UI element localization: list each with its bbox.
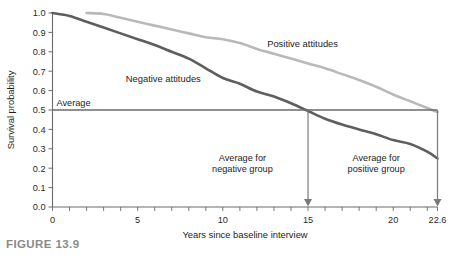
x-tick-label: 0 bbox=[50, 215, 55, 225]
y-tick-label: 0.8 bbox=[33, 47, 46, 57]
y-tick-label: 0.9 bbox=[33, 28, 46, 38]
y-tick-label: 0.4 bbox=[33, 125, 46, 135]
y-axis-ticks bbox=[49, 13, 53, 207]
x-axis-tick-labels: 0510152022.6 bbox=[50, 215, 447, 225]
y-tick-label: 0.0 bbox=[33, 202, 46, 212]
x-axis-ticks bbox=[53, 207, 438, 211]
y-tick-label: 0.2 bbox=[33, 164, 46, 174]
annotation-positive-group-line2: positive group bbox=[348, 164, 405, 174]
annotation-positive-group-line1: Average for bbox=[353, 153, 400, 163]
y-axis-tick-labels: 0.00.10.20.30.40.50.60.70.80.91.0 bbox=[33, 8, 46, 212]
y-tick-label: 1.0 bbox=[33, 8, 46, 18]
x-tick-label: 5 bbox=[135, 215, 140, 225]
figure-container: 0.00.10.20.30.40.50.60.70.80.91.0 051015… bbox=[0, 0, 455, 261]
series-label-negative-attitudes: Negative attitudes bbox=[126, 73, 201, 84]
data-series-curves bbox=[53, 13, 438, 159]
average-negative-group-arrow bbox=[304, 110, 312, 207]
average-positive-group-arrow bbox=[434, 110, 442, 207]
y-tick-label: 0.3 bbox=[33, 144, 46, 154]
y-tick-label: 0.7 bbox=[33, 67, 46, 77]
survival-probability-chart: 0.00.10.20.30.40.50.60.70.80.91.0 051015… bbox=[0, 0, 455, 238]
annotation-negative-group-line1: Average for bbox=[219, 153, 266, 163]
y-axis-title: Survival probability bbox=[5, 70, 16, 149]
annotation-negative-group-line2: negative group bbox=[212, 164, 273, 174]
figure-caption: FIGURE 13.9 bbox=[6, 238, 79, 250]
y-tick-label: 0.6 bbox=[33, 86, 46, 96]
y-tick-label: 0.1 bbox=[33, 183, 46, 193]
average-line-label: Average bbox=[57, 98, 91, 108]
series-label-positive-attitudes: Positive attitudes bbox=[267, 38, 338, 49]
y-tick-label: 0.5 bbox=[33, 105, 46, 115]
x-tick-label: 20 bbox=[388, 215, 398, 225]
x-tick-label: 22.6 bbox=[429, 215, 447, 225]
x-axis-title: Years since baseline interview bbox=[182, 229, 307, 238]
x-tick-label: 15 bbox=[303, 215, 313, 225]
series-curve-negative-attitudes bbox=[53, 13, 438, 159]
series-curve-positive-attitudes bbox=[87, 13, 438, 112]
x-tick-label: 10 bbox=[218, 215, 228, 225]
